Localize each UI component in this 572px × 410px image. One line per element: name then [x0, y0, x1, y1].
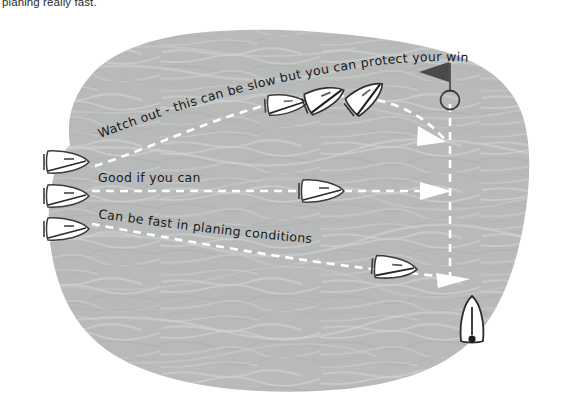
diagram-stage: planing really fast. [0, 0, 572, 410]
route-middle-label-text: Good if you can [98, 170, 201, 185]
boat-sail-marking [392, 265, 402, 266]
boat-transom [265, 99, 266, 113]
boat-transom [372, 258, 373, 274]
sailing-course-diagram: Watch out - this can be slow but you can… [0, 0, 572, 410]
boat-stern-dot [468, 335, 475, 342]
boat-sail-marking [284, 101, 293, 102]
